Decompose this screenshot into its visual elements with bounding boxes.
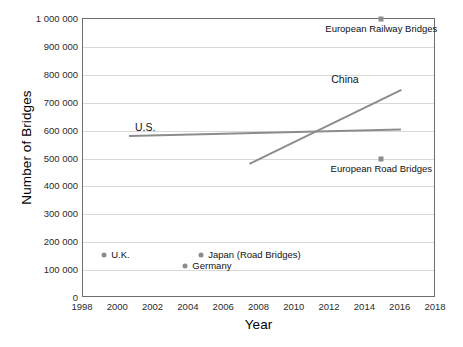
gridline xyxy=(83,214,434,215)
y-tick-label: 500 000 xyxy=(8,152,78,163)
gridline xyxy=(83,75,434,76)
x-tick-label: 2010 xyxy=(283,301,304,312)
gridline xyxy=(83,103,434,104)
data-point-european-railway-bridges xyxy=(379,17,384,22)
y-tick-label: 1 000 000 xyxy=(8,13,78,24)
series-label-european-road-bridges: European Road Bridges xyxy=(331,163,432,174)
x-tick-label: 1998 xyxy=(71,301,92,312)
x-tick-label: 2002 xyxy=(142,301,163,312)
data-point-japan-road-bridges xyxy=(199,252,204,257)
gridline xyxy=(83,47,434,48)
y-axis-tick-labels: 0100 000200 000300 000400 000500 000600 … xyxy=(4,0,78,347)
series-label-japan-road-bridges: Japan (Road Bridges) xyxy=(208,249,300,260)
series-label-european-railway-bridges: European Railway Bridges xyxy=(325,23,437,34)
plot-area: U.S.ChinaU.K.Japan (Road Bridges)Germany… xyxy=(82,18,435,297)
series-label-china: China xyxy=(331,73,358,85)
x-tick-label: 2004 xyxy=(177,301,198,312)
x-tick-label: 2018 xyxy=(424,301,445,312)
series-label-germany: Germany xyxy=(192,260,231,271)
series-label-u-k: U.K. xyxy=(111,249,129,260)
gridline xyxy=(83,186,434,187)
x-tick-label: 2008 xyxy=(248,301,269,312)
x-axis-title: Year xyxy=(82,317,435,332)
data-point-germany xyxy=(183,264,188,269)
data-point-u-k xyxy=(102,252,107,257)
gridline xyxy=(83,270,434,271)
x-tick-label: 2000 xyxy=(107,301,128,312)
y-tick-label: 700 000 xyxy=(8,96,78,107)
x-tick-label: 2014 xyxy=(354,301,375,312)
data-point-european-road-bridges xyxy=(379,156,384,161)
y-tick-label: 100 000 xyxy=(8,264,78,275)
y-tick-label: 400 000 xyxy=(8,180,78,191)
x-tick-label: 2012 xyxy=(319,301,340,312)
y-tick-label: 800 000 xyxy=(8,68,78,79)
gridline xyxy=(83,242,434,243)
y-tick-label: 300 000 xyxy=(8,208,78,219)
y-tick-label: 600 000 xyxy=(8,124,78,135)
y-tick-label: 0 xyxy=(8,292,78,303)
series-label-u-s: U.S. xyxy=(135,121,155,133)
x-tick-label: 2006 xyxy=(213,301,234,312)
series-line-china xyxy=(249,89,402,165)
x-tick-label: 2016 xyxy=(389,301,410,312)
y-tick-label: 200 000 xyxy=(8,236,78,247)
bridges-scatter-chart: Number of Bridges 0100 000200 000300 000… xyxy=(0,0,463,347)
y-tick-label: 900 000 xyxy=(8,40,78,51)
